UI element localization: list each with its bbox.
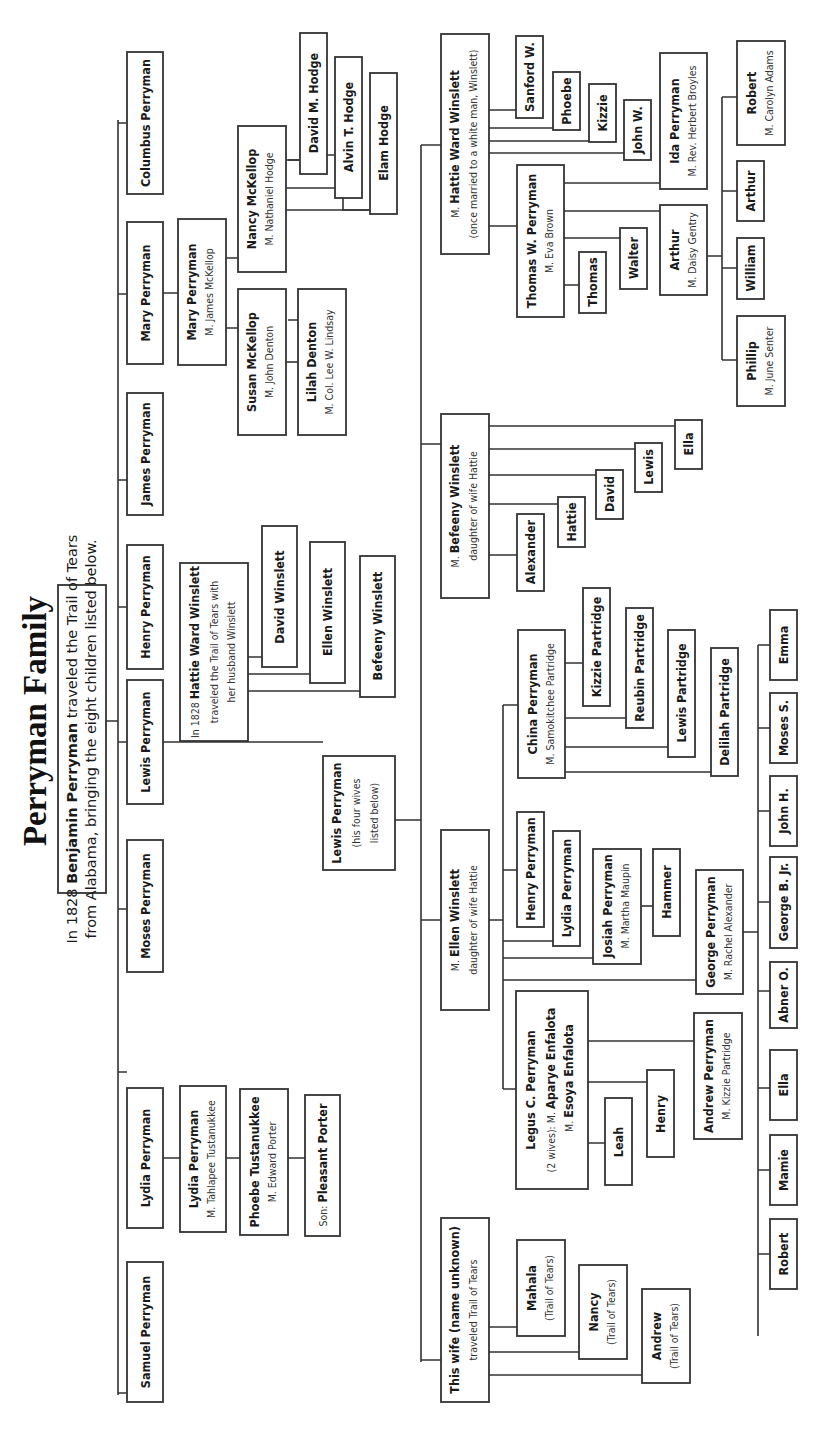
arthur-child-robert[interactable]: Robert M. Carolyn Adams xyxy=(737,41,785,145)
befeeny-child-lewis[interactable]: Lewis xyxy=(635,443,662,492)
pleasant-porter-box[interactable]: Son: Pleasant Porter xyxy=(305,1095,340,1236)
phoebe-tustanukkee-box[interactable]: Phoebe Tustanukkee M. Edward Porter xyxy=(240,1089,288,1235)
wife-unknown-box[interactable]: This wife (name unknown) traveled Trail … xyxy=(441,1218,489,1402)
ellen-child-lydia-perryman[interactable]: Lydia Perryman xyxy=(553,831,580,946)
david-winslett-box[interactable]: David Winslett xyxy=(262,526,297,667)
svg-text:Lydia Perryman: Lydia Perryman xyxy=(138,1109,153,1208)
mary-perryman-spouse-box[interactable]: Mary Perryman M. James McKellop xyxy=(178,219,226,365)
svg-text:M. June Senter: M. June Senter xyxy=(763,326,775,395)
ellen-child-george-perryman[interactable]: George Perryman M. Rachel Alexander xyxy=(696,870,743,994)
ellen-child-henry-perryman[interactable]: Henry Perryman xyxy=(517,812,544,927)
child-moses[interactable]: Moses Perryman xyxy=(127,840,163,972)
befeeny-child-hattie[interactable]: Hattie xyxy=(558,497,585,547)
svg-text:(2 wives): M. Aparye Enfalota: (2 wives): M. Aparye Enfalota xyxy=(543,1008,558,1173)
hodge-child-david[interactable]: David M. Hodge xyxy=(300,33,327,174)
svg-text:Henry: Henry xyxy=(653,1094,668,1133)
svg-text:Lewis Perryman: Lewis Perryman xyxy=(138,691,153,792)
hattie-child-john-w[interactable]: John W. xyxy=(624,100,651,160)
unknown-child-nancy[interactable]: Nancy (Trail of Tears) xyxy=(579,1265,627,1359)
wife-befeeny-box[interactable]: M. Befeeny Winslett daughter of wife Hat… xyxy=(441,414,489,598)
china-child-kizzie-partridge[interactable]: Kizzie Partridge xyxy=(583,588,610,706)
andrew-child-ella[interactable]: Ella xyxy=(770,1050,797,1120)
china-child-lewis-partridge[interactable]: Lewis Partridge xyxy=(668,630,695,757)
befeeny-winslett-box[interactable]: Befeeny Winslett xyxy=(360,556,395,697)
ellen-child-legus-perryman[interactable]: Legus C. Perryman (2 wives): M. Aparye E… xyxy=(516,991,588,1189)
child-mary[interactable]: Mary Perryman xyxy=(127,222,163,364)
wife-hattie-box[interactable]: M. Hattie Ward Winslett (once married to… xyxy=(441,34,489,254)
svg-text:Josiah Perryman: Josiah Perryman xyxy=(600,854,615,959)
unknown-child-andrew[interactable]: Andrew (Trail of Tears) xyxy=(642,1289,690,1383)
china-child-delilah-partridge[interactable]: Delilah Partridge xyxy=(711,648,738,776)
svg-text:M. James McKellop: M. James McKellop xyxy=(203,248,215,336)
child-james[interactable]: James Perryman xyxy=(127,393,163,515)
svg-text:M. Samokitchee Partridge: M. Samokitchee Partridge xyxy=(544,643,556,765)
lewis-perryman-box[interactable]: Lewis Perryman (his four wives listed be… xyxy=(323,756,395,870)
george-child-george-b-jr[interactable]: George B. Jr. xyxy=(770,857,797,948)
thomas-child-ida[interactable]: Ida Perryman M. Rev. Herbert Broyles xyxy=(660,53,707,189)
svg-text:John H.: John H. xyxy=(776,788,791,835)
thomas-child-walter[interactable]: Walter xyxy=(620,228,647,289)
svg-text:Lydia Perryman: Lydia Perryman xyxy=(559,839,574,938)
hodge-child-elam[interactable]: Elam Hodge xyxy=(370,73,397,214)
child-samuel[interactable]: Samuel Perryman xyxy=(127,1262,163,1402)
ellen-child-china[interactable]: China Perryman M. Samokitchee Partridge xyxy=(518,630,565,778)
hattie-child-sanford[interactable]: Sanford W. xyxy=(516,36,543,118)
china-child-reubin-partridge[interactable]: Reubin Partridge xyxy=(626,608,653,728)
befeeny-child-david[interactable]: David xyxy=(596,470,623,519)
thomas-w-perryman-box[interactable]: Thomas W. Perryman M. Eva Brown xyxy=(517,165,564,317)
josiah-child-hammer[interactable]: Hammer xyxy=(653,849,680,936)
george-child-emma[interactable]: Emma xyxy=(770,610,797,680)
hodge-child-alvin[interactable]: Alvin T. Hodge xyxy=(335,57,362,198)
lilah-denton-box[interactable]: Lilah Denton M. Col. Lee W. Lindsay xyxy=(298,289,346,435)
andrew-child-mamie[interactable]: Mamie xyxy=(770,1135,797,1205)
thomas-child-thomas[interactable]: Thomas xyxy=(579,252,606,313)
svg-text:Lydia Perryman: Lydia Perryman xyxy=(186,1110,201,1209)
george-child-moses-s[interactable]: Moses S. xyxy=(770,693,797,763)
wife-ellen-box[interactable]: M. Ellen Winslett daughter of wife Hatti… xyxy=(441,830,489,1010)
child-lydia[interactable]: Lydia Perryman xyxy=(127,1088,163,1228)
svg-text:Hattie: Hattie xyxy=(564,502,579,542)
ellen-child-andrew-perryman[interactable]: Andrew Perryman M. Kizzie Partridge xyxy=(694,1013,742,1139)
ellen-winslett-box[interactable]: Ellen Winslett xyxy=(310,542,345,683)
svg-text:Reubin Partridge: Reubin Partridge xyxy=(632,614,647,722)
child-lewis[interactable]: Lewis Perryman xyxy=(127,680,163,804)
befeeny-child-ella[interactable]: Ella xyxy=(675,420,702,469)
svg-text:Sanford W.: Sanford W. xyxy=(522,42,537,111)
legus-child-henry[interactable]: Henry xyxy=(647,1070,674,1157)
svg-text:Phillip: Phillip xyxy=(744,341,759,381)
hattie-child-kizzie[interactable]: Kizzie xyxy=(589,84,616,142)
svg-text:George B. Jr.: George B. Jr. xyxy=(776,863,791,942)
svg-text:M. Eva Brown: M. Eva Brown xyxy=(543,209,555,273)
arthur-child-arthur[interactable]: Arthur xyxy=(737,161,764,221)
svg-text:Mary Perryman: Mary Perryman xyxy=(138,244,153,341)
thomas-child-arthur[interactable]: Arthur M. Daisy Gentry xyxy=(660,205,707,295)
svg-text:Mary Perryman: Mary Perryman xyxy=(184,243,199,340)
lydia-perryman-spouse-box[interactable]: Lydia Perryman M. Tahlapee Tustanukkee xyxy=(180,1086,226,1232)
svg-text:Abner O.: Abner O. xyxy=(776,967,791,1022)
arthur-child-phillip[interactable]: Phillip M. June Senter xyxy=(737,316,785,406)
unknown-child-mahala[interactable]: Mahala (Trail of Tears) xyxy=(517,1240,565,1336)
george-child-john-h[interactable]: John H. xyxy=(770,776,797,846)
arthur-child-william[interactable]: William xyxy=(737,238,764,299)
svg-text:James Perryman: James Perryman xyxy=(138,402,153,506)
svg-text:Moses S.: Moses S. xyxy=(776,700,791,756)
child-henry[interactable]: Henry Perryman xyxy=(127,545,163,669)
hattie-child-phoebe[interactable]: Phoebe xyxy=(553,72,580,130)
befeeny-child-alexander[interactable]: Alexander xyxy=(517,514,544,591)
ellen-child-josiah-perryman[interactable]: Josiah Perryman M. Martha Maupin xyxy=(593,849,641,964)
svg-text:Legus C. Perryman: Legus C. Perryman xyxy=(523,1030,538,1150)
svg-text:Phoebe Tustanukkee: Phoebe Tustanukkee xyxy=(247,1096,262,1227)
svg-text:This wife (name unknown): This wife (name unknown) xyxy=(447,1226,462,1394)
svg-text:M. Carolyn Adams: M. Carolyn Adams xyxy=(763,50,775,135)
george-child-abner-o[interactable]: Abner O. xyxy=(770,962,797,1028)
susan-mckellop-box[interactable]: Susan McKellop M. John Denton xyxy=(238,289,286,435)
svg-text:M. Edward Porter: M. Edward Porter xyxy=(266,1122,278,1203)
svg-text:traveled Trail of Tears: traveled Trail of Tears xyxy=(467,1260,479,1361)
child-columbus[interactable]: Columbus Perryman xyxy=(127,52,163,194)
legus-child-leah[interactable]: Leah xyxy=(605,1098,632,1185)
svg-text:Andrew: Andrew xyxy=(649,1312,664,1360)
andrew-child-robert[interactable]: Robert xyxy=(770,1219,797,1289)
nancy-mckellop-box[interactable]: Nancy McKellop M. Nathaniel Hodge xyxy=(238,126,286,272)
svg-text:Samuel Perryman: Samuel Perryman xyxy=(138,1276,153,1388)
svg-text:Mamie: Mamie xyxy=(776,1149,791,1191)
